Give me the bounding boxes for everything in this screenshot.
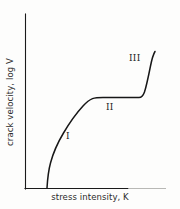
region-label-three: III <box>129 54 141 63</box>
plot-area <box>0 0 180 209</box>
y-axis-title-container: crack velocity, log V <box>2 14 18 190</box>
region-label-two: II <box>106 103 114 112</box>
chart-figure: I II III stress intensity, K crack veloc… <box>0 0 180 209</box>
y-axis-title: crack velocity, log V <box>5 58 15 146</box>
region-label-one: I <box>66 132 70 141</box>
x-axis-title: stress intensity, K <box>0 192 180 202</box>
crack-growth-curve <box>47 52 155 189</box>
